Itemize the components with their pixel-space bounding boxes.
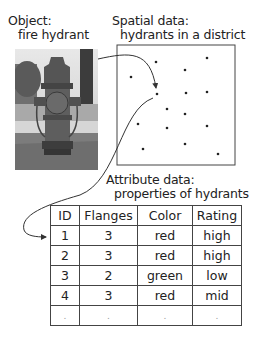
hydrant-point bbox=[155, 61, 158, 64]
hydrant-point bbox=[142, 148, 145, 151]
hydrant-points bbox=[130, 57, 220, 156]
hydrant-point bbox=[206, 57, 209, 60]
column-header-rating: Rating bbox=[193, 206, 242, 226]
attribute-subtitle: properties of hydrants bbox=[106, 187, 249, 201]
table-row: 2 3 red high bbox=[51, 246, 242, 266]
hydrant-point bbox=[184, 143, 187, 146]
cell-flanges: 3 bbox=[80, 226, 138, 246]
column-header-flanges: Flanges bbox=[80, 206, 138, 226]
hydrant-point bbox=[156, 93, 159, 96]
cell-flanges: . bbox=[80, 306, 138, 326]
cell-rating: . bbox=[193, 306, 242, 326]
cell-color: green bbox=[138, 266, 193, 286]
table-row-ellipsis: . . . . bbox=[51, 306, 242, 326]
column-header-id: ID bbox=[51, 206, 80, 226]
arrow-object-to-point bbox=[98, 55, 156, 88]
hydrant-point bbox=[137, 123, 140, 126]
hydrant-point bbox=[206, 125, 209, 128]
cell-rating: high bbox=[193, 246, 242, 266]
cell-color: . bbox=[138, 306, 193, 326]
cell-color: red bbox=[138, 246, 193, 266]
cell-color: red bbox=[138, 286, 193, 306]
table-row: 1 3 red high bbox=[51, 226, 242, 246]
cell-id: 2 bbox=[51, 246, 80, 266]
hydrant-point bbox=[184, 69, 187, 72]
hydrant-point bbox=[184, 113, 187, 116]
cell-flanges: 2 bbox=[80, 266, 138, 286]
hydrant-point bbox=[217, 153, 220, 156]
cell-rating: low bbox=[193, 266, 242, 286]
hydrant-point bbox=[166, 108, 169, 111]
spatial-box bbox=[117, 45, 235, 165]
cell-color: red bbox=[138, 226, 193, 246]
cell-id: 1 bbox=[51, 226, 80, 246]
attribute-title: Attribute data: bbox=[106, 173, 249, 187]
table-header-row: ID Flanges Color Rating bbox=[51, 206, 242, 226]
cell-rating: high bbox=[193, 226, 242, 246]
attribute-label: Attribute data: properties of hydrants bbox=[106, 173, 249, 201]
hydrant-point bbox=[130, 76, 133, 79]
cell-flanges: 3 bbox=[80, 246, 138, 266]
attribute-table: ID Flanges Color Rating 1 3 red high 2 3… bbox=[50, 205, 242, 326]
hydrant-point bbox=[166, 127, 169, 130]
table-row: 3 2 green low bbox=[51, 266, 242, 286]
cell-id: . bbox=[51, 306, 80, 326]
hydrant-point bbox=[206, 91, 209, 94]
table-row: 4 3 red mid bbox=[51, 286, 242, 306]
cell-rating: mid bbox=[193, 286, 242, 306]
cell-flanges: 3 bbox=[80, 286, 138, 306]
hydrant-point bbox=[185, 92, 188, 95]
cell-id: 4 bbox=[51, 286, 80, 306]
column-header-color: Color bbox=[138, 206, 193, 226]
cell-id: 3 bbox=[51, 266, 80, 286]
